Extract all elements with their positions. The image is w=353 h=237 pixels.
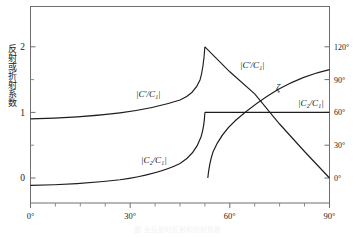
chart-canvas: 0° 30° 60° 90° 0 1 2 0° 30° 60° 90° 120° — [0, 0, 353, 237]
x-tick-label-60: 60° — [224, 211, 236, 221]
plot-frame — [31, 7, 330, 204]
label-transmission-lower: |C₂/C₁| — [141, 155, 167, 165]
x-axis-minor-ticks — [55, 203, 304, 207]
y-left-tick-label-1: 1 — [20, 108, 25, 118]
figure-caption: 图 全反射时反射和折射系数 — [70, 224, 285, 234]
x-tick-label-30: 30° — [124, 211, 136, 221]
y-axis-left-label: 反射或折射系数 — [0, 44, 17, 107]
y-right-tick-label-90: 90° — [334, 76, 345, 85]
label-reflection-lower: |C'/C₁| — [136, 89, 161, 99]
y-right-tick-label-120: 120° — [334, 43, 349, 52]
label-reflection-upper: |C'/C₁| — [240, 60, 265, 70]
y-right-tick-label-0: 0° — [334, 174, 341, 183]
y-right-tick-label-60: 60° — [334, 108, 345, 117]
label-transmission-right: |C₂/C₁| — [298, 98, 324, 108]
y-left-tick-label-0: 0 — [20, 173, 25, 183]
y-left-tick-label-2: 2 — [20, 42, 25, 52]
x-tick-label-0: 0° — [27, 211, 35, 221]
figure-container: 反射或折射系数 0° 30° 60° 90° — [0, 0, 353, 237]
x-tick-label-90: 90° — [324, 211, 336, 221]
y-right-tick-label-30: 30° — [334, 141, 345, 150]
